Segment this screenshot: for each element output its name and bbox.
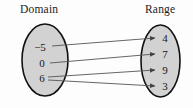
range-value: 4 <box>162 32 168 44</box>
domain-value: 6 <box>39 72 45 84</box>
domain-value: −5 <box>34 41 46 53</box>
mapping-diagram: Domain Range −5 0 6 4 7 9 3 <box>0 0 193 108</box>
range-value: 7 <box>162 48 168 60</box>
range-value: 3 <box>162 80 168 92</box>
domain-value: 0 <box>39 57 45 69</box>
mapping-arrow <box>52 38 155 46</box>
range-value: 9 <box>162 64 168 76</box>
range-oval <box>141 25 180 97</box>
mapping-arrow <box>48 80 155 86</box>
